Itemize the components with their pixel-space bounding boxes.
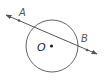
label-o: O	[37, 41, 46, 54]
point-a-dot	[18, 19, 21, 22]
label-a: A	[18, 7, 26, 18]
center-o-dot	[50, 44, 53, 47]
diagram: A B O	[0, 0, 104, 80]
point-b-dot	[86, 49, 89, 52]
label-b: B	[81, 33, 88, 44]
